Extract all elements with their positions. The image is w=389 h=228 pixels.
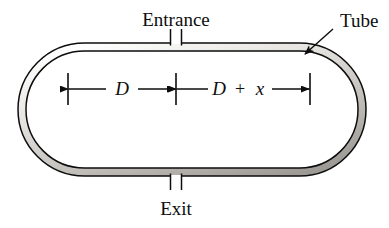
entrance-stub — [171, 29, 182, 46]
tube-label: Tube — [340, 10, 378, 31]
tube-loop-figure: D D + x Entrance Exit Tube — [0, 0, 389, 228]
dimension-label-right-term: x — [255, 78, 265, 99]
exit-label: Exit — [160, 198, 192, 219]
tube-loop-diagram: D D + x Entrance Exit Tube — [0, 0, 389, 228]
exit-stub-bore — [171, 175, 182, 190]
tube-body — [18, 43, 366, 176]
exit-stub — [171, 174, 182, 191]
tube-inner-outline — [26, 51, 358, 168]
tube-wall-fill — [22, 47, 362, 172]
dimension-group: D D + x — [68, 73, 310, 105]
entrance-stub-bore — [171, 29, 182, 44]
dimension-label-right-var: D — [211, 78, 226, 99]
tube-outer-outline — [18, 43, 366, 176]
dimension-label-left: D — [114, 78, 129, 99]
entrance-label: Entrance — [142, 9, 210, 30]
dimension-label-right-operator: + — [235, 79, 245, 99]
